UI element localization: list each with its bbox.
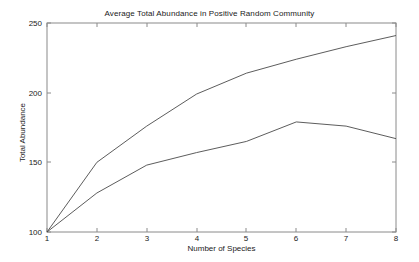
xtick-label-7: 7 [344,234,348,243]
y-axis-ticks [47,23,396,232]
y-axis-label: Total Abundance [18,93,27,173]
xtick-label-3: 3 [145,234,149,243]
xtick-label-4: 4 [195,234,199,243]
x-axis-ticks [47,23,396,232]
ytick-label-100: 100 [16,228,42,237]
data-line-upper [47,36,396,232]
chart-figure: Average Total Abundance in Positive Rand… [0,0,419,262]
xtick-label-2: 2 [95,234,99,243]
xtick-label-8: 8 [394,234,398,243]
axes-frame [47,23,396,232]
x-axis-label: Number of Species [47,244,396,253]
data-line-lower [47,122,396,232]
xtick-label-5: 5 [244,234,248,243]
ytick-label-250: 250 [16,19,42,28]
plot-area [0,0,419,262]
xtick-label-6: 6 [294,234,298,243]
xtick-label-1: 1 [45,234,49,243]
